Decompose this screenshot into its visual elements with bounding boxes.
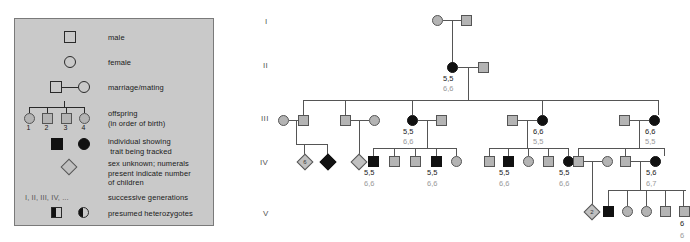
descent-line-III-5 [639,120,640,148]
descent-line-III-2 [359,120,360,156]
sibship-bar-IV-1 [304,144,328,145]
individual-IV-13-male[interactable] [620,156,631,167]
sibship-drop-IV-4b [625,148,626,156]
sibship-drop-V-4 [665,190,666,206]
individual-V-5-male-clipped[interactable] [679,206,690,217]
diamond-count-IV-1: 6 [300,157,310,167]
diamond-count-V-1: 2 [587,207,597,217]
individual-V-2-female[interactable] [622,206,633,217]
genotype-V-edge-top: 6 [680,219,684,228]
genotype-II-1-bottom: 6,6 [443,84,453,93]
generation-label-III: III [261,114,269,123]
individual-III-5-female-affected[interactable] [407,115,418,126]
sibship-drop-V-3 [646,190,647,206]
mating-line-IV-1 [584,161,602,162]
sibship-drop-IV-3d [548,148,549,156]
individual-II-2-male[interactable] [478,62,489,73]
individual-IV-3-male[interactable] [410,156,421,167]
individual-IV-4-male-affected[interactable] [431,156,442,167]
sibship-drop-IV-2b [394,148,395,156]
mating-line-III-2 [351,120,369,121]
genotype-IV-7-bottom: 6,6 [499,179,509,188]
genotype-III-5-bottom: 6,6 [403,137,413,146]
individual-IV-diamond-2-affected[interactable] [320,154,337,171]
descent-line-I-to-II [452,20,453,63]
individual-III-2-male[interactable] [298,115,309,126]
descent-line-II-to-sibship-III [468,67,469,100]
individual-IV-14-female-affected[interactable] [650,156,661,167]
sibship-drop-III-1 [303,100,304,115]
individual-IV-1-male-affected[interactable] [368,156,379,167]
genotype-II-1-top: 5,5 [443,74,453,83]
individual-III-7-male[interactable] [507,115,518,126]
individual-IV-2-male[interactable] [389,156,400,167]
sibship-bar-V [608,190,686,191]
genotype-IV-1-bottom: 6,6 [364,179,374,188]
sibship-drop-IV-2c [415,148,416,156]
individual-III-10-female-affected[interactable] [649,115,660,126]
sibship-drop-IV-3a [489,148,490,156]
individual-V-diamond-1-unknown-sex[interactable]: 2 [584,204,601,221]
descent-line-III-4 [527,120,528,148]
individual-IV-5-female[interactable] [451,156,462,167]
sibship-drop-IV-3c [528,148,529,156]
sibship-drop-V-5 [683,190,684,206]
individual-V-4-male[interactable] [660,206,671,217]
sibship-bar-IV-3 [489,148,569,149]
genotype-III-5-top: 5,5 [403,127,413,136]
sibship-drop-V-2 [627,190,628,206]
individual-III-9-male[interactable] [619,115,630,126]
descent-line-IV-1 [592,161,593,206]
individual-I-2-male[interactable] [461,15,472,26]
genotype-IV-4-bottom: 6,6 [427,179,437,188]
sibship-drop-IV-3b [508,148,509,156]
genotype-IV-7-top: 5,5 [499,168,509,177]
individual-IV-9-male[interactable] [543,156,554,167]
individual-III-4-female[interactable] [369,115,380,126]
sibship-bar-IV-4 [578,148,664,149]
genotype-IV-10-bottom: 6,6 [559,179,569,188]
generation-label-I: I [265,17,268,26]
individual-II-1-female-affected[interactable] [447,62,458,73]
generation-label-II: II [263,61,268,70]
descent-line-III-1 [296,120,297,144]
genotype-III-10-bottom: 5,5 [645,137,655,146]
sibship-drop-V-1 [608,190,609,206]
individual-IV-11-male[interactable] [573,156,584,167]
generation-label-IV: IV [260,158,268,167]
sibship-drop-III-4 [542,100,543,115]
sibship-drop-IV-4c [664,148,665,156]
individual-III-3-male[interactable] [340,115,351,126]
individual-III-1-female[interactable] [278,115,289,126]
genotype-III-8-bottom: 5,5 [533,137,543,146]
descent-line-III-3 [427,120,428,148]
sibship-drop-III-2 [345,100,346,115]
sibship-drop-IV-3e [568,148,569,156]
sibship-bar-III [303,100,658,101]
individual-IV-7-male-affected[interactable] [503,156,514,167]
sibship-drop-IV-4a [578,148,579,156]
genotype-IV-10-top: 5,5 [559,168,569,177]
genotype-V-edge-bottom: 6 [680,231,684,240]
individual-IV-12-female[interactable] [602,156,613,167]
generation-label-V: V [263,209,269,218]
sibship-drop-III-3 [412,100,413,115]
descent-line-IV-2 [640,161,641,190]
individual-I-1-female[interactable] [432,15,443,26]
individual-III-6-male[interactable] [436,115,447,126]
individual-IV-8-female[interactable] [523,156,534,167]
individual-III-8-female-affected[interactable] [537,115,548,126]
genotype-IV-4-top: 5,5 [427,168,437,177]
individual-V-1-male-affected[interactable] [603,206,614,217]
sibship-drop-IV-2d [436,148,437,156]
genotype-IV-14-bottom: 6,7 [646,179,656,188]
genotype-III-10-top: 6,6 [645,127,655,136]
individual-IV-6-male[interactable] [484,156,495,167]
sibship-drop-IV-2e [456,148,457,156]
genotype-IV-14-top: 5,6 [646,168,656,177]
individual-V-3-female[interactable] [641,206,652,217]
individual-IV-diamond-1-unknown-sex[interactable]: 6 [297,154,314,171]
genotype-IV-1-top: 5,5 [364,168,374,177]
sibship-drop-IV-2a [373,148,374,156]
